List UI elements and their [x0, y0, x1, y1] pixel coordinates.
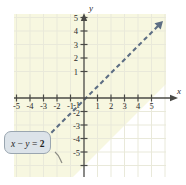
x-tick-label: 3	[122, 101, 126, 111]
y-tick-label: 1	[74, 67, 78, 77]
x-tick-label: -2	[53, 101, 60, 111]
x-tick-label: -3	[40, 101, 47, 111]
y-tick-label: -2	[73, 108, 80, 118]
x-tick-label: 5	[149, 101, 153, 111]
y-tick-label: -3	[73, 121, 80, 131]
equation-callout-text: x − y = 2	[11, 139, 44, 149]
y-tick-label: -5	[73, 148, 80, 158]
x-tick-label: -5	[13, 101, 20, 111]
y-axis-label: y	[88, 3, 93, 13]
y-tick-label: 3	[74, 40, 78, 50]
x-tick-label: -4	[26, 101, 34, 111]
y-tick-label: 2	[74, 53, 78, 63]
x-axis-label: x	[176, 86, 181, 96]
coordinate-plane-graph: -5 -4 -3 -2 -1 1 2 3 4 5 5 4 3 2 1 -1 -2…	[0, 0, 186, 185]
figure-root: -5 -4 -3 -2 -1 1 2 3 4 5 5 4 3 2 1 -1 -2…	[0, 0, 186, 185]
x-tick-label: 1	[95, 101, 99, 111]
equation-callout: x − y = 2	[4, 131, 51, 154]
y-tick-label: 5	[74, 13, 78, 23]
x-tick-label: 2	[109, 101, 113, 111]
y-tick-label: -4	[73, 134, 81, 144]
